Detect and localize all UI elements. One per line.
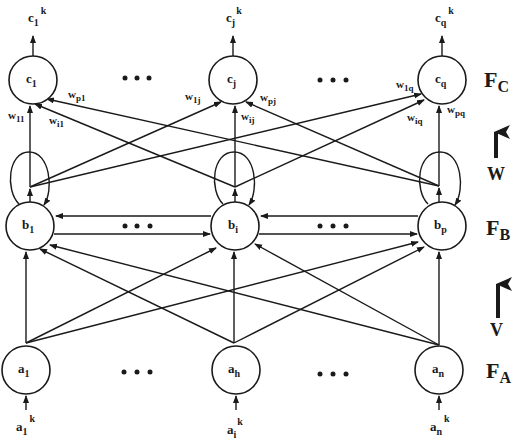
layer-fa-nodes: a1 ah an	[2, 346, 463, 394]
input-arrows	[26, 396, 439, 410]
ellipsis-fc-left	[123, 76, 152, 81]
ellipsis-fc-right	[318, 78, 349, 83]
edge-an-b1	[50, 245, 439, 345]
node-bp: bp	[418, 202, 466, 250]
weight-label-wpq: wpq	[447, 103, 465, 118]
weight-label-wpj: wpj	[260, 91, 276, 106]
edge-ah-bp	[234, 247, 424, 343]
edge-b1-cj	[30, 102, 221, 187]
layer-fb-nodes: b1 bi bp	[6, 202, 466, 250]
bam-network-diagram: c1 cj cq b1 bi bp a1	[0, 0, 518, 439]
node-an: an	[415, 346, 463, 394]
weight-label-w1j: w1j	[185, 90, 200, 105]
ellipsis-fb-left	[123, 224, 153, 229]
node-ah: ah	[212, 346, 260, 394]
ellipsis-fa-left	[122, 370, 153, 375]
output-label-c1k: c1k	[28, 5, 47, 28]
weight-label-w11: w11	[8, 109, 25, 124]
bp-self-loop	[420, 152, 461, 205]
layer-label-fc: FC	[484, 67, 509, 95]
edge-a1-bp	[26, 242, 418, 343]
matrix-w-label: W	[487, 164, 505, 184]
edge-bi-cq	[235, 100, 424, 187]
node-b1: b1	[6, 202, 54, 250]
weight-label-wiq: wiq	[407, 111, 422, 126]
matrix-v-indicator: V	[490, 284, 503, 340]
input-label-aik: aik	[227, 416, 243, 439]
weight-label-wp1: wp1	[68, 88, 86, 103]
node-bi: bi	[211, 202, 259, 250]
output-arrows	[33, 36, 442, 56]
layer-label-fa: FA	[486, 358, 511, 386]
edge-a1-bi	[26, 248, 216, 343]
matrix-w-indicator: W	[487, 132, 505, 184]
layer-label-fb: FB	[486, 215, 510, 243]
node-c1: c1	[9, 56, 57, 104]
weight-label-wi1: wi1	[49, 114, 64, 129]
node-cj: cj	[209, 56, 257, 104]
weight-label-w1q: w1q	[396, 78, 413, 93]
weight-label-wij: wij	[241, 110, 254, 125]
v-connections	[26, 242, 439, 345]
matrix-v-label: V	[490, 320, 503, 340]
input-labels: a1k aik ank	[16, 413, 450, 439]
ellipsis-fb-right	[318, 224, 349, 229]
input-label-ank: ank	[430, 413, 450, 437]
output-label-cjk: cjk	[226, 5, 242, 28]
w-connections	[30, 94, 439, 187]
input-label-a1k: a1k	[16, 413, 36, 437]
ellipsis-fa-right	[318, 372, 349, 377]
edge-ah-b1	[40, 249, 234, 343]
output-label-cqk: cqk	[435, 5, 454, 28]
node-cq: cq	[418, 56, 466, 104]
node-a1: a1	[2, 346, 50, 394]
edge-an-bi	[255, 244, 439, 345]
output-labels: c1k cjk cqk	[28, 5, 454, 28]
